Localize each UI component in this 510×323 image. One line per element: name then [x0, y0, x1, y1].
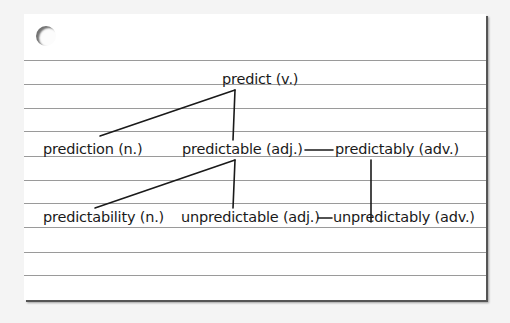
node-prediction: prediction (n.) [43, 140, 142, 158]
node-predictable: predictable (adj.) [182, 140, 303, 158]
ruled-line [24, 108, 486, 109]
ruled-line [24, 131, 486, 132]
ruled-line [24, 252, 486, 253]
ruled-line [24, 227, 486, 228]
node-predictability: predictability (n.) [43, 208, 164, 226]
ruled-line [24, 275, 486, 276]
node-root: predict (v.) [222, 70, 298, 88]
node-unpredictably: unpredictably (adv.) [333, 208, 475, 226]
ruled-line [24, 203, 486, 204]
ruled-line [24, 180, 486, 181]
node-unpredictable: unpredictable (adj.) [181, 208, 320, 226]
node-predictably: predictably (adv.) [335, 140, 459, 158]
punch-hole-icon [36, 26, 56, 46]
ruled-line [24, 60, 486, 61]
